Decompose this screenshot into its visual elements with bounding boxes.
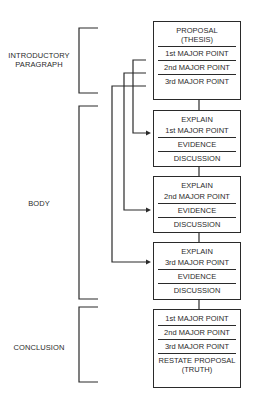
proposal-title: PROPOSAL (THESIS): [154, 22, 240, 46]
explain-box-2: EXPLAIN 2nd MAJOR POINT EVIDENCE DISCUSS…: [153, 176, 241, 233]
explain-discussion: DISCUSSION: [154, 284, 240, 297]
explain-title: EXPLAIN: [154, 111, 240, 126]
explain-evidence: EVIDENCE: [154, 138, 240, 151]
arrow-3-icon: [146, 260, 151, 265]
explain-point: 3rd MAJOR POINT: [154, 258, 240, 269]
arrow-1-icon: [146, 131, 151, 136]
proposal-point-1: 1st MAJOR POINT: [154, 47, 240, 60]
body-label: BODY: [14, 199, 64, 208]
conclusion-point-2: 2nd MAJOR POINT: [154, 326, 240, 339]
explain-evidence: EVIDENCE: [154, 270, 240, 283]
intro-bracket: [79, 28, 98, 93]
explain-title: EXPLAIN: [154, 177, 240, 192]
body-bracket: [79, 106, 98, 299]
proposal-box: PROPOSAL (THESIS) 1st MAJOR POINT 2nd MA…: [153, 21, 241, 100]
conclusion-label: CONCLUSION: [4, 343, 74, 352]
conclusion-bracket: [79, 307, 98, 382]
route-point-2: [124, 73, 146, 210]
conclusion-box: 1st MAJOR POINT 2nd MAJOR POINT 3rd MAJO…: [153, 309, 241, 388]
explain-box-1: EXPLAIN 1st MAJOR POINT EVIDENCE DISCUSS…: [153, 110, 241, 167]
explain-title: EXPLAIN: [154, 243, 240, 258]
conclusion-point-3: 3rd MAJOR POINT: [154, 340, 240, 353]
arrow-2-icon: [146, 208, 151, 213]
explain-discussion: DISCUSSION: [154, 218, 240, 231]
explain-point: 2nd MAJOR POINT: [154, 192, 240, 203]
explain-discussion: DISCUSSION: [154, 152, 240, 165]
explain-box-3: EXPLAIN 3rd MAJOR POINT EVIDENCE DISCUSS…: [153, 242, 241, 300]
route-point-3: [112, 86, 146, 262]
route-point-1: [133, 60, 146, 133]
intro-label: INTRODUCTORY PARAGRAPH: [2, 51, 76, 69]
proposal-point-2: 2nd MAJOR POINT: [154, 61, 240, 74]
conclusion-point-1: 1st MAJOR POINT: [154, 310, 240, 325]
explain-evidence: EVIDENCE: [154, 204, 240, 217]
proposal-point-3: 3rd MAJOR POINT: [154, 75, 240, 88]
conclusion-restate: RESTATE PROPOSAL (TRUTH): [154, 354, 240, 376]
explain-point: 1st MAJOR POINT: [154, 126, 240, 137]
